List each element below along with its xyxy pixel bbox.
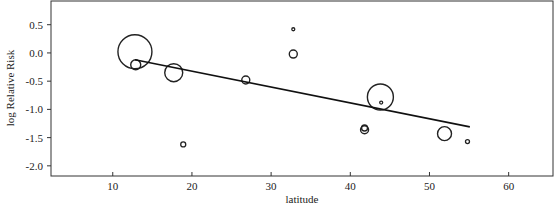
y-tick-label: -2.0: [26, 160, 44, 172]
x-tick-label: 20: [186, 180, 198, 192]
y-tick-label: 0.0: [29, 47, 43, 59]
data-point-circle: [292, 28, 295, 31]
y-tick-label: 0.5: [29, 19, 43, 31]
x-axis: 102030405060: [107, 172, 514, 192]
y-tick-label: -0.5: [26, 75, 44, 87]
x-tick-label: 60: [503, 180, 515, 192]
data-point-circle: [181, 142, 186, 147]
data-point-circle: [380, 101, 383, 104]
x-tick-label: 40: [345, 180, 357, 192]
regression-line: [135, 60, 470, 127]
x-tick-label: 50: [424, 180, 436, 192]
data-point-circle: [367, 84, 393, 110]
x-tick-label: 30: [266, 180, 278, 192]
x-axis-label: latitude: [286, 193, 319, 205]
bubble-scatter-chart: 0.50.0-0.5-1.0-1.5-2.0 102030405060 lati…: [0, 0, 558, 216]
data-point-circle: [438, 127, 452, 141]
data-point-circle: [118, 35, 152, 69]
y-tick-label: -1.5: [26, 132, 44, 144]
data-points: [118, 28, 470, 147]
y-tick-label: -1.0: [26, 103, 44, 115]
y-axis-label: log Relative Risk: [4, 49, 16, 126]
data-point-circle: [465, 140, 469, 144]
y-axis: 0.50.0-0.5-1.0-1.5-2.0: [26, 19, 51, 172]
plot-frame: [51, 1, 553, 176]
x-tick-label: 10: [107, 180, 119, 192]
data-point-circle: [289, 50, 297, 58]
